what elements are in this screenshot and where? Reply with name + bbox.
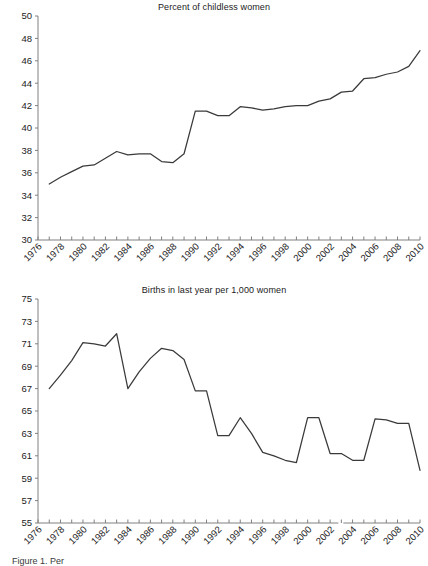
top-x-tick-label: 2000 bbox=[291, 241, 314, 264]
bottom-x-tick-label: 1998 bbox=[268, 524, 291, 547]
top-x-tick-label: 1978 bbox=[44, 241, 67, 264]
top-x-tick-label: 1996 bbox=[246, 241, 269, 264]
top-y-tick-label: 42 bbox=[21, 100, 32, 111]
bottom-x-tick-label: 1996 bbox=[246, 524, 269, 547]
bottom-x-tick-label: 2006 bbox=[358, 524, 381, 547]
top-y-tick-label: 34 bbox=[21, 190, 32, 201]
chart-plot-bottom: 5557596163656769717375197619781980198219… bbox=[0, 283, 428, 566]
bottom-x-tick-label: 1988 bbox=[156, 524, 179, 547]
top-y-tick-label: 46 bbox=[21, 55, 32, 66]
top-x-tick-label: 1982 bbox=[89, 241, 112, 264]
bottom-x-tick-label: 1986 bbox=[134, 524, 157, 547]
top-x-tick-label: 1986 bbox=[134, 241, 157, 264]
top-x-tick-label: 2008 bbox=[381, 241, 404, 264]
bottom-x-tick-label: 1982 bbox=[89, 524, 112, 547]
bottom-y-tick-label: 55 bbox=[21, 517, 32, 528]
bottom-data-line bbox=[49, 334, 420, 471]
top-x-tick-label: 1988 bbox=[156, 241, 179, 264]
top-x-tick-label: 2006 bbox=[358, 241, 381, 264]
chart-panel-percent-childless: Percent of childless women 3032343638404… bbox=[0, 0, 428, 283]
top-y-tick-label: 38 bbox=[21, 145, 32, 156]
top-x-tick-label: 1980 bbox=[66, 241, 89, 264]
top-x-tick-label: 2002 bbox=[313, 241, 336, 264]
bottom-x-tick-label: 2000 bbox=[291, 524, 314, 547]
bottom-x-tick-label: 1980 bbox=[66, 524, 89, 547]
bottom-x-tick-label: 1992 bbox=[201, 524, 224, 547]
bottom-x-tick-label: 1984 bbox=[111, 524, 134, 547]
top-y-tick-label: 48 bbox=[21, 33, 32, 44]
bottom-y-tick-label: 75 bbox=[21, 293, 32, 304]
bottom-y-tick-label: 73 bbox=[21, 316, 32, 327]
bottom-x-tick-label: 2002 bbox=[313, 524, 336, 547]
bottom-x-tick-label: 1994 bbox=[223, 524, 246, 547]
chart-plot-top: 3032343638404244464850197619781980198219… bbox=[0, 0, 428, 283]
bottom-y-tick-label: 71 bbox=[21, 338, 32, 349]
bottom-x-tick-label: 1978 bbox=[44, 524, 67, 547]
top-y-tick-label: 50 bbox=[21, 10, 32, 21]
bottom-x-tick-label: 2008 bbox=[381, 524, 404, 547]
top-x-tick-label: 2004 bbox=[336, 241, 359, 264]
top-y-tick-label: 30 bbox=[21, 234, 32, 245]
top-x-tick-label: 1998 bbox=[268, 241, 291, 264]
bottom-y-tick-label: 57 bbox=[21, 495, 32, 506]
top-x-tick-label: 1992 bbox=[201, 241, 224, 264]
top-x-tick-label: 2010 bbox=[403, 241, 426, 264]
top-x-tick-label: 1994 bbox=[223, 241, 246, 264]
chart-panel-births-per-1000: Births in last year per 1,000 women 5557… bbox=[0, 283, 428, 566]
bottom-y-tick-label: 69 bbox=[21, 361, 32, 372]
bottom-y-tick-label: 67 bbox=[21, 383, 32, 394]
top-y-tick-label: 36 bbox=[21, 167, 32, 178]
top-y-tick-label: 40 bbox=[21, 122, 32, 133]
bottom-x-tick-label: 2010 bbox=[403, 524, 426, 547]
bottom-y-tick-label: 63 bbox=[21, 428, 32, 439]
bottom-x-tick-label: 1990 bbox=[178, 524, 201, 547]
top-y-tick-label: 32 bbox=[21, 212, 32, 223]
top-x-tick-label: 1984 bbox=[111, 241, 134, 264]
figure-container: Percent of childless women 3032343638404… bbox=[0, 0, 428, 566]
bottom-x-tick-label: 2004 bbox=[336, 524, 359, 547]
figure-caption: Figure 1. Per bbox=[12, 556, 64, 566]
top-y-tick-label: 44 bbox=[21, 78, 32, 89]
top-data-line bbox=[49, 51, 420, 184]
top-x-tick-label: 1990 bbox=[178, 241, 201, 264]
bottom-y-tick-label: 65 bbox=[21, 405, 32, 416]
bottom-y-tick-label: 61 bbox=[21, 450, 32, 461]
bottom-y-tick-label: 59 bbox=[21, 473, 32, 484]
